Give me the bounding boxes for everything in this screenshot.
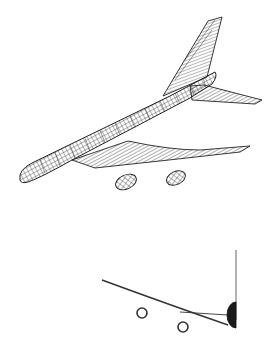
engine-ring-right xyxy=(178,322,188,332)
engine-ring-left xyxy=(137,308,147,318)
wing-strut-line xyxy=(180,312,228,315)
fuselage xyxy=(20,72,216,183)
engine-right xyxy=(164,168,188,188)
engine-left xyxy=(113,171,139,193)
front-view xyxy=(102,250,236,332)
perspective-view xyxy=(20,17,262,193)
wing-front-curve xyxy=(102,280,228,325)
aircraft-diagram xyxy=(0,0,271,347)
fuselage-cross-section xyxy=(227,302,236,328)
